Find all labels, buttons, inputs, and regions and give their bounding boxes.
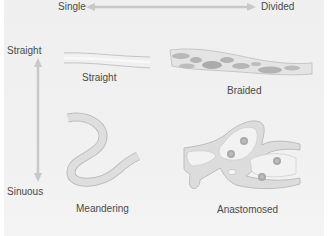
horizontal-double-arrow <box>86 3 256 11</box>
vertical-double-arrow <box>34 58 42 182</box>
axis-label-straight: Straight <box>7 45 41 57</box>
pattern-label-meandering: Meandering <box>76 203 129 215</box>
pattern-label-braided: Braided <box>227 85 261 97</box>
axis-label-single: Single <box>58 1 86 13</box>
anastomosed-channel <box>184 121 300 189</box>
axis-label-sinuous: Sinuous <box>7 186 43 198</box>
braided-channel <box>170 49 312 75</box>
straight-channel <box>64 53 150 68</box>
meandering-channel <box>68 117 138 182</box>
axis-label-divided: Divided <box>261 1 294 13</box>
pattern-label-anastomosed: Anastomosed <box>217 204 278 216</box>
pattern-label-straight: Straight <box>82 72 116 84</box>
diagram-artwork <box>0 0 332 236</box>
